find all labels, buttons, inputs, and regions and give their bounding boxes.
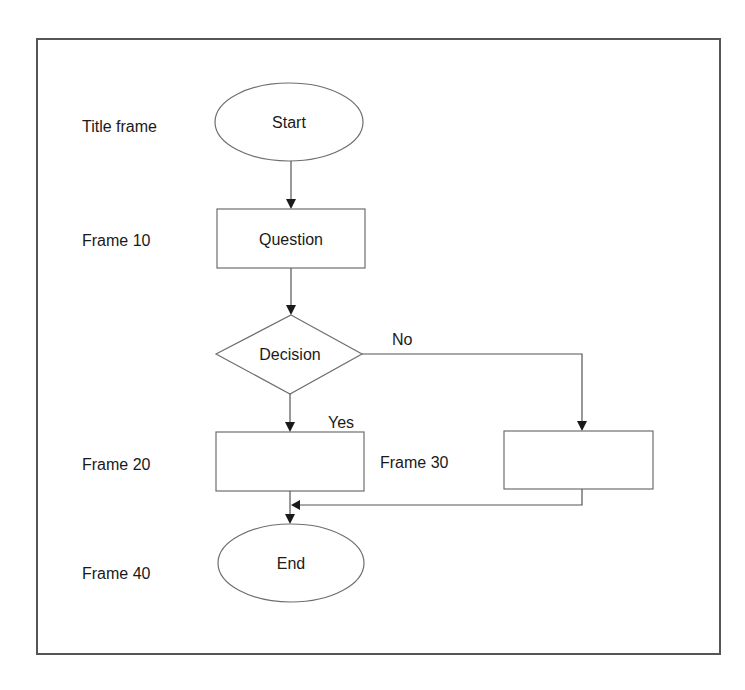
edge-frame20-end [285,491,295,524]
edge-start-question [286,161,296,209]
edge-frame30-merge [291,489,582,510]
no-label: No [392,331,413,348]
decision-label: Decision [259,346,320,363]
frame-20-box [216,432,364,491]
edge-decision-no: No [362,331,587,431]
end-label: End [277,555,305,572]
frame-30-box [504,431,653,489]
start-label: Start [272,114,306,131]
arrowhead-icon [285,422,295,432]
edge-decision-yes: Yes [285,394,354,432]
question-label: Question [259,231,323,248]
question-node: Question [217,209,365,268]
edge-question-decision [286,268,296,315]
end-node: End [218,524,364,602]
arrowhead-icon [286,199,296,209]
row-label-title-frame: Title frame [82,118,157,135]
flowchart-diagram: Title frame Frame 10 Frame 20 Frame 30 F… [0,0,745,690]
row-label-frame-30: Frame 30 [380,454,449,471]
arrowhead-icon [286,305,296,315]
arrowhead-icon [577,421,587,431]
start-node: Start [215,83,363,161]
row-label-frame-40: Frame 40 [82,565,151,582]
arrowhead-icon [291,500,300,510]
row-label-frame-20: Frame 20 [82,456,151,473]
row-label-frame-10: Frame 10 [82,232,151,249]
yes-label: Yes [328,414,354,431]
decision-node: Decision [216,315,362,394]
arrowhead-icon [285,514,295,524]
